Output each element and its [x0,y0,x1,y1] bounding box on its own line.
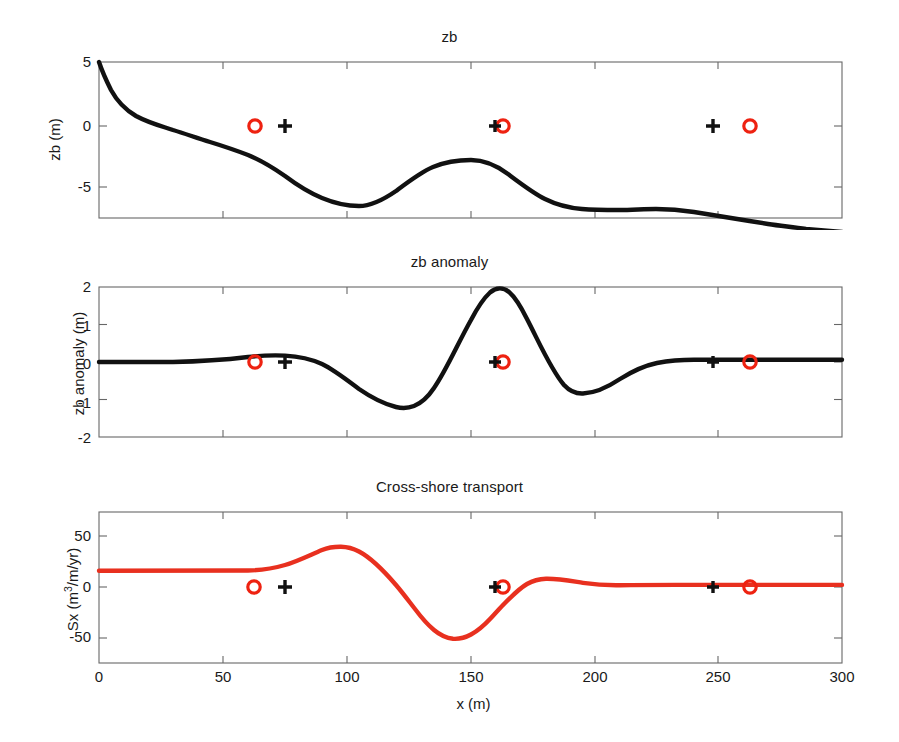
yticks-zb [99,126,842,187]
marker-circle [248,581,260,593]
marker-circle [744,120,756,132]
marker-group-circles-zb [249,120,756,132]
marker-plus [706,119,720,133]
xtick-label-2: 100 [327,668,367,685]
xtick-label-1: 50 [203,668,243,685]
curve-zb [99,62,842,230]
xtick-label-5: 250 [698,668,738,685]
figure-canvas: zb zb (m) 5 0 -5 [0,0,899,742]
curve-transport [99,547,842,639]
plot-area-zb [0,0,899,230]
xtick-label-3: 150 [451,668,491,685]
xticks-transport [223,512,718,663]
xtick-label-0: 0 [79,668,119,685]
xticks-zb [223,62,718,218]
xticks-anomaly [223,287,718,437]
plot-area-anomaly [0,230,899,455]
xlabel: x (m) [52,695,895,712]
xtick-label-6: 300 [822,668,862,685]
marker-circle [249,120,261,132]
marker-plus [278,580,292,594]
plot-area-transport [0,455,899,685]
xtick-label-4: 200 [575,668,615,685]
curve-anomaly [99,288,842,407]
marker-plus [278,119,292,133]
